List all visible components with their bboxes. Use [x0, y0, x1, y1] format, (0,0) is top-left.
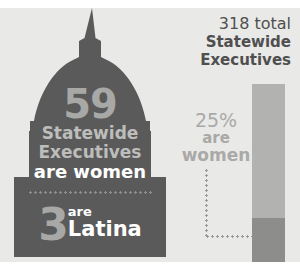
capitol-label-are-women: are women: [10, 162, 170, 182]
latina-count: 3: [38, 204, 68, 246]
totals-panel: 318 total Statewide Executives 25% are w…: [185, 0, 300, 274]
percent-women-callout: 25% are women: [180, 110, 252, 164]
latina-words: are Latina: [68, 204, 142, 241]
vertical-dotted-connector: [205, 168, 208, 238]
total-count-line: 318 total: [185, 14, 291, 33]
women-count: 59: [14, 84, 166, 124]
capitol-label-statewide-executives: Statewide Executives: [10, 124, 170, 162]
panel-heading: 318 total Statewide Executives: [185, 14, 291, 69]
latina-label-latina: Latina: [68, 218, 142, 241]
infographic-canvas: 59 Statewide Executives are women 3 are …: [0, 0, 300, 274]
percent-value: 25%: [180, 110, 252, 130]
women-share-bar-segment: [252, 218, 285, 263]
total-executives-bar: [252, 84, 285, 262]
total-label-statewide: Statewide: [185, 33, 291, 51]
percent-label-women: women: [180, 146, 252, 164]
percent-label-are: are: [180, 130, 252, 146]
horizontal-dotted-connector: [205, 235, 253, 238]
dotted-separator: [28, 191, 152, 194]
capitol-illustration: 59 Statewide Executives are women 3 are …: [0, 0, 185, 274]
capitol-label-line2: Executives: [10, 143, 170, 162]
latina-stat: 3 are Latina: [14, 204, 166, 246]
capitol-label-line1: Statewide: [10, 124, 170, 143]
total-label-executives: Executives: [185, 51, 291, 69]
